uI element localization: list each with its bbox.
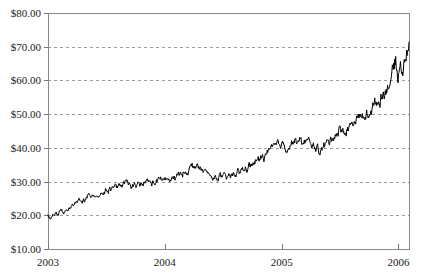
series-line-price (48, 42, 409, 219)
y-axis-label-40: $40.00 (11, 142, 42, 154)
x-axis-label-2006: 2006 (387, 256, 410, 268)
y-axis-ticks-group (44, 14, 48, 250)
x-axis-label-2005: 2005 (271, 256, 294, 268)
y-axis-labels-group: $10.00$20.00$30.00$40.00$50.00$60.00$70.… (11, 7, 42, 255)
chart-canvas: $10.00$20.00$30.00$40.00$50.00$60.00$70.… (0, 0, 427, 276)
price-series-group (48, 42, 409, 219)
gridlines-group (48, 47, 409, 216)
x-axis-label-2003: 2003 (37, 256, 60, 268)
x-axis-label-2004: 2004 (154, 256, 177, 268)
x-axis-ticks-group (49, 244, 399, 249)
x-axis-labels-group: 2003200420052006 (37, 256, 410, 268)
y-axis-label-30: $30.00 (11, 176, 42, 188)
plot-frame-group (49, 14, 410, 250)
stock-price-chart: $10.00$20.00$30.00$40.00$50.00$60.00$70.… (0, 0, 427, 276)
y-axis-label-10: $10.00 (11, 243, 42, 255)
y-axis-label-20: $20.00 (11, 209, 42, 221)
y-axis-label-80: $80.00 (11, 7, 42, 19)
y-axis-label-60: $60.00 (11, 74, 42, 86)
y-axis-label-70: $70.00 (11, 41, 42, 53)
plot-frame (49, 14, 410, 250)
y-axis-label-50: $50.00 (11, 108, 42, 120)
